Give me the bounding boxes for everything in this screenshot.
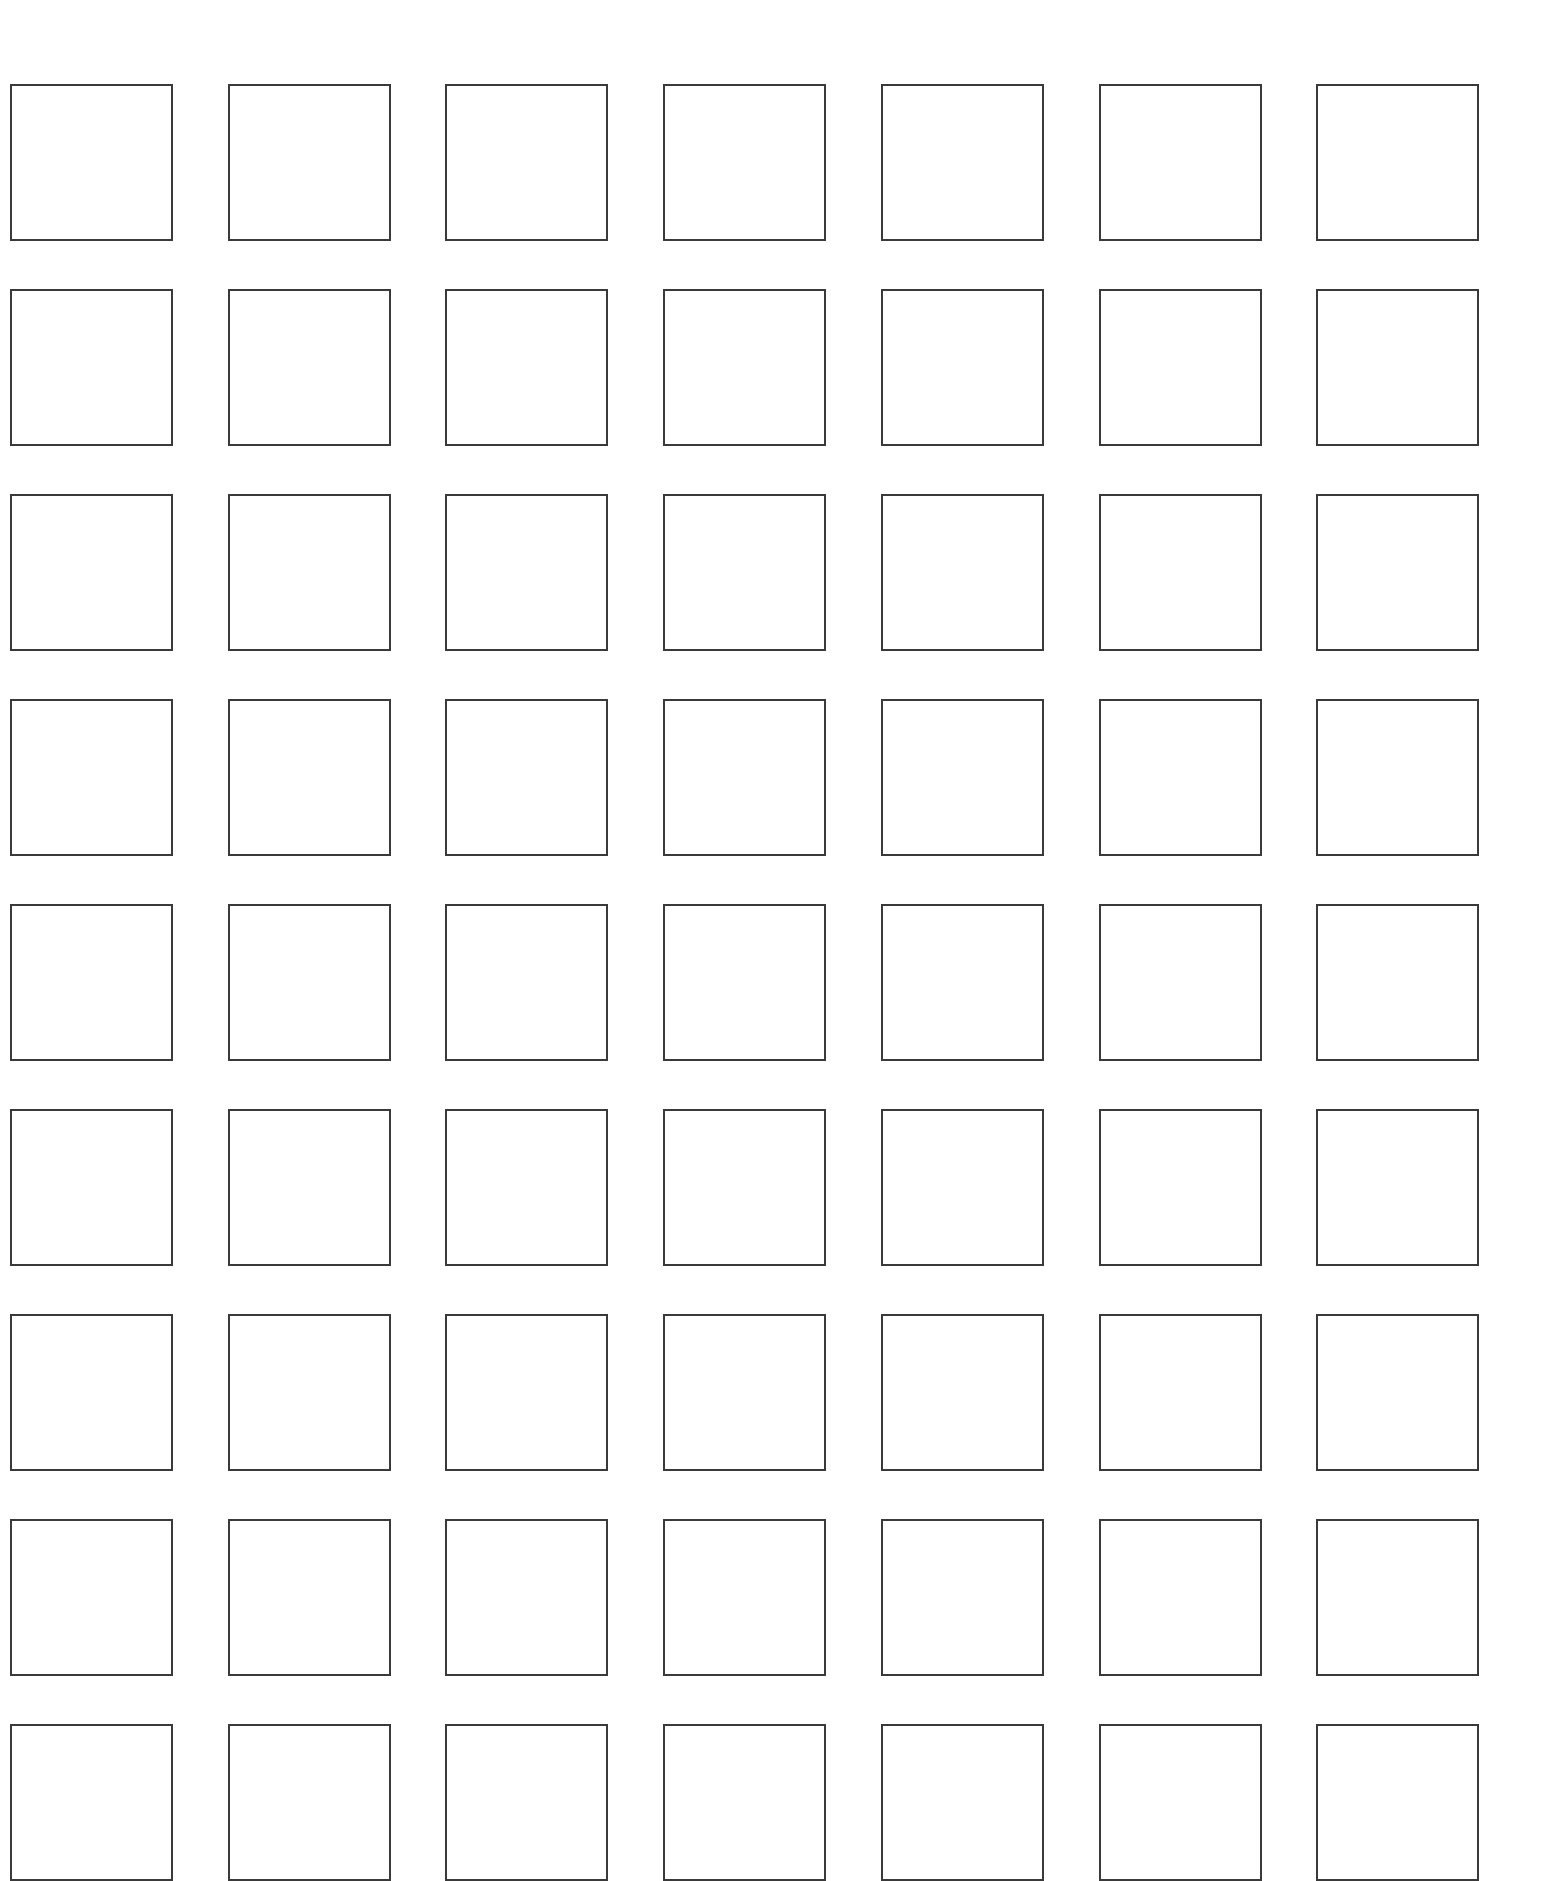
grid-box-r8-c6 — [1099, 1519, 1262, 1676]
grid-box-r3-c1 — [10, 494, 173, 651]
grid-box-r4-c2 — [228, 699, 391, 856]
grid-box-r7-c5 — [881, 1314, 1044, 1471]
grid-box-r3-c2 — [228, 494, 391, 651]
grid-box-r9-c4 — [663, 1724, 826, 1881]
grid-box-r4-c4 — [663, 699, 826, 856]
grid-box-r5-c1 — [10, 904, 173, 1061]
grid-box-r2-c1 — [10, 289, 173, 446]
grid-box-r2-c7 — [1316, 289, 1479, 446]
grid-box-r5-c5 — [881, 904, 1044, 1061]
grid-box-r5-c4 — [663, 904, 826, 1061]
grid-box-r6-c4 — [663, 1109, 826, 1266]
grid-box-r7-c7 — [1316, 1314, 1479, 1471]
grid-box-r3-c5 — [881, 494, 1044, 651]
grid-box-r1-c2 — [228, 84, 391, 241]
grid-box-r5-c7 — [1316, 904, 1479, 1061]
grid-box-r7-c2 — [228, 1314, 391, 1471]
grid-box-r8-c5 — [881, 1519, 1044, 1676]
grid-box-r5-c3 — [445, 904, 608, 1061]
grid-box-r3-c3 — [445, 494, 608, 651]
grid-box-r2-c6 — [1099, 289, 1262, 446]
grid-box-r8-c7 — [1316, 1519, 1479, 1676]
grid-box-r9-c7 — [1316, 1724, 1479, 1881]
grid-box-r6-c5 — [881, 1109, 1044, 1266]
grid-box-r7-c4 — [663, 1314, 826, 1471]
grid-box-r7-c3 — [445, 1314, 608, 1471]
grid-box-r5-c2 — [228, 904, 391, 1061]
grid-box-r3-c6 — [1099, 494, 1262, 651]
grid-box-r4-c5 — [881, 699, 1044, 856]
grid-box-r9-c6 — [1099, 1724, 1262, 1881]
grid-box-r8-c4 — [663, 1519, 826, 1676]
grid-box-r8-c2 — [228, 1519, 391, 1676]
grid-box-r4-c3 — [445, 699, 608, 856]
grid-box-r8-c1 — [10, 1519, 173, 1676]
grid-box-r3-c7 — [1316, 494, 1479, 651]
grid-box-r6-c6 — [1099, 1109, 1262, 1266]
grid-box-r4-c7 — [1316, 699, 1479, 856]
grid-box-r7-c1 — [10, 1314, 173, 1471]
grid-box-r9-c3 — [445, 1724, 608, 1881]
grid-box-r9-c5 — [881, 1724, 1044, 1881]
grid-box-r4-c6 — [1099, 699, 1262, 856]
grid-box-r3-c4 — [663, 494, 826, 651]
grid-box-r2-c3 — [445, 289, 608, 446]
grid-box-r7-c6 — [1099, 1314, 1262, 1471]
grid-box-r9-c1 — [10, 1724, 173, 1881]
grid-box-r1-c7 — [1316, 84, 1479, 241]
grid-box-r1-c1 — [10, 84, 173, 241]
grid-box-r1-c4 — [663, 84, 826, 241]
grid-box-r5-c6 — [1099, 904, 1262, 1061]
grid-box-r1-c3 — [445, 84, 608, 241]
grid-box-r1-c6 — [1099, 84, 1262, 241]
grid-box-r2-c5 — [881, 289, 1044, 446]
grid-box-r6-c7 — [1316, 1109, 1479, 1266]
grid-box-r2-c4 — [663, 289, 826, 446]
grid-box-r2-c2 — [228, 289, 391, 446]
grid-box-r6-c2 — [228, 1109, 391, 1266]
grid-box-r1-c5 — [881, 84, 1044, 241]
grid-box-r6-c3 — [445, 1109, 608, 1266]
grid-box-r9-c2 — [228, 1724, 391, 1881]
grid-box-r4-c1 — [10, 699, 173, 856]
grid-box-r8-c3 — [445, 1519, 608, 1676]
grid-box-r6-c1 — [10, 1109, 173, 1266]
